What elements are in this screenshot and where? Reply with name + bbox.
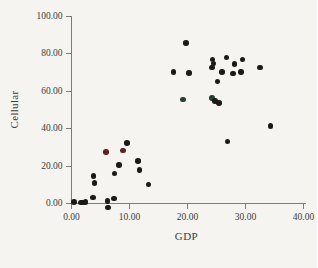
scatter-point xyxy=(92,180,98,186)
x-tick-label: 0.00 xyxy=(52,212,92,223)
x-axis-title: GDP xyxy=(157,230,217,242)
y-tick-label: 80.00 xyxy=(19,48,63,59)
scatter-point xyxy=(216,100,222,106)
scatter-point xyxy=(83,199,89,205)
scatter-point xyxy=(211,61,217,67)
scatter-point xyxy=(103,149,109,155)
scatter-point xyxy=(230,71,236,77)
y-tick-label: 20.00 xyxy=(19,161,63,172)
x-tick-mark xyxy=(187,204,188,209)
scatter-point xyxy=(238,69,244,75)
scatter-point xyxy=(180,97,186,103)
y-tick-mark xyxy=(66,128,71,129)
y-axis-line xyxy=(71,16,72,204)
scatter-point xyxy=(105,198,111,204)
scatter-point xyxy=(268,123,274,129)
scatter-point xyxy=(112,171,118,177)
scatter-point xyxy=(224,55,230,61)
scatter-point xyxy=(91,173,97,179)
scatter-point xyxy=(257,65,263,71)
scatter-point xyxy=(219,69,225,75)
x-tick-mark xyxy=(129,204,130,209)
x-tick-label: 10.00 xyxy=(110,212,150,223)
scatter-point xyxy=(120,148,126,154)
y-tick-mark xyxy=(66,53,71,54)
scatter-point xyxy=(71,199,77,205)
scatter-point xyxy=(116,162,122,168)
scatter-plot-figure: Cellular GDP 0.0020.0040.0060.0080.00100… xyxy=(0,0,317,268)
y-tick-mark xyxy=(66,91,71,92)
x-tick-label: 20.00 xyxy=(168,212,208,223)
scatter-point xyxy=(225,139,231,145)
scatter-point xyxy=(215,79,221,85)
x-tick-mark xyxy=(245,204,246,209)
x-tick-mark xyxy=(303,204,304,209)
y-tick-label: 60.00 xyxy=(19,86,63,97)
scatter-point xyxy=(105,205,111,211)
y-tick-label: 0.00 xyxy=(19,198,63,209)
scatter-point xyxy=(146,182,152,188)
scatter-point xyxy=(171,69,177,75)
y-tick-label: 100.00 xyxy=(19,11,63,22)
scatter-point xyxy=(183,40,189,46)
scatter-point xyxy=(90,195,96,201)
scatter-point xyxy=(124,140,130,146)
y-tick-mark xyxy=(66,16,71,17)
scatter-point xyxy=(111,196,117,202)
scatter-point xyxy=(137,167,143,173)
x-tick-label: 30.00 xyxy=(226,212,266,223)
y-tick-label: 40.00 xyxy=(19,123,63,134)
x-tick-label: 40.00 xyxy=(284,212,318,223)
scatter-point xyxy=(232,61,238,67)
scatter-point xyxy=(135,158,141,164)
y-tick-mark xyxy=(66,166,71,167)
scatter-point xyxy=(186,70,192,76)
scatter-point xyxy=(240,57,246,63)
